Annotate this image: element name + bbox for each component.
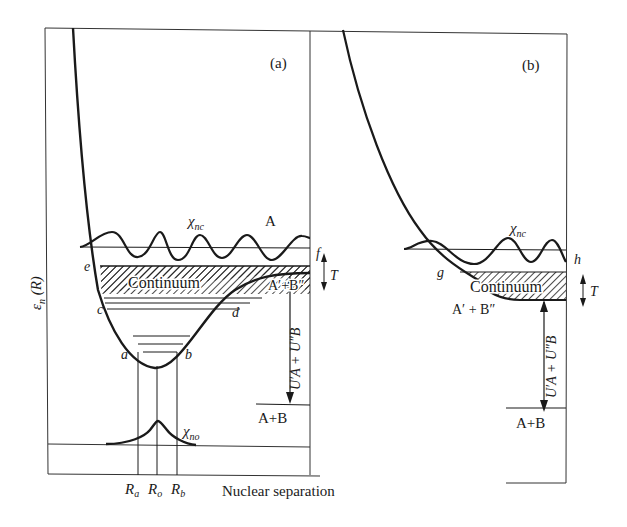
excited-asymptote-label-a: A′+B″ — [268, 278, 304, 293]
point-c-label: c — [97, 302, 104, 317]
point-b-label: b — [185, 347, 192, 362]
arrow-up-icon-b — [540, 300, 548, 312]
bound-potential-curve — [73, 28, 310, 368]
panel-b-tag: (b) — [522, 57, 540, 74]
point-d-label: d — [232, 305, 240, 320]
chi-nc-wavefunction-b — [404, 238, 566, 264]
continuum-energy-level-a — [80, 247, 310, 248]
t-arrow-down-icon-b — [580, 298, 586, 307]
energy-gap-label-a: U′A + U″B — [288, 327, 303, 390]
x-tick-ro: Ro — [147, 481, 162, 499]
x-tick-rb: Rb — [170, 481, 185, 499]
continuum-label-b: Continuum — [470, 278, 543, 295]
x-axis-label: Nuclear separation — [222, 483, 335, 499]
panel-a — [73, 28, 327, 475]
ground-asymptote-line-a — [256, 404, 310, 405]
x-tick-ra: Ra — [124, 481, 139, 499]
panel-a-tag: (a) — [270, 55, 287, 72]
chi-no-label: χno — [181, 423, 200, 442]
state-a-label: A — [265, 213, 276, 229]
energy-gap-label-b: U′A + U″B — [544, 335, 559, 398]
kinetic-label-b: T — [590, 284, 599, 299]
repulsive-potential-curve — [343, 30, 478, 280]
continuum-label-a: Continuum — [128, 274, 201, 291]
ground-asymptote-label-a: A+B — [258, 410, 287, 426]
point-e-label: e — [84, 259, 90, 274]
kinetic-label-a: T — [330, 268, 339, 283]
point-h-label: h — [574, 252, 581, 267]
ground-asymptote-label-b: A+B — [516, 415, 545, 431]
excited-asymptote-label-b: A′ + B″ — [452, 302, 495, 317]
point-f-label: f — [316, 246, 322, 261]
point-a-label: a — [121, 347, 128, 362]
chi-nc-label-b: χnc — [508, 220, 527, 239]
potential-energy-diagram: (a) χnc A Continuum A′+B″ A+B χno e c d … — [0, 0, 627, 527]
panel-a-frame — [45, 28, 320, 476]
chi-nc-wavefunction-a — [80, 232, 310, 260]
y-axis-label: εn (R) — [28, 276, 47, 310]
point-g-label: g — [437, 265, 444, 280]
r-marker-lines — [138, 352, 177, 475]
t-arrow-down-icon-a — [321, 282, 327, 291]
arrow-down-icon-b — [540, 400, 548, 412]
chi-nc-label-a: χnc — [186, 213, 205, 232]
arrow-down-icon — [286, 392, 294, 404]
